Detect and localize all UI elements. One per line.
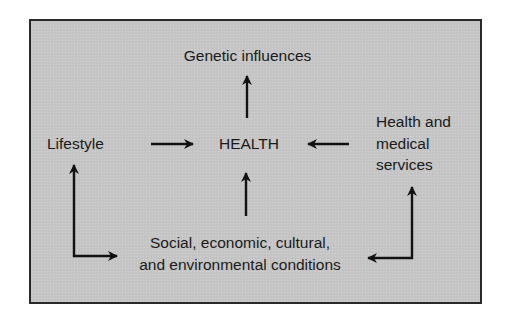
node-lifestyle: Lifestyle <box>47 133 104 155</box>
node-health-medical-services: Health and medical services <box>376 111 451 176</box>
node-health: HEALTH <box>205 133 293 155</box>
node-genetic-influences: Genetic influences <box>170 45 325 67</box>
services-line-1: Health and <box>376 111 451 133</box>
services-line-3: services <box>376 154 451 176</box>
services-line-2: medical <box>376 133 451 155</box>
conditions-line-1: Social, economic, cultural, <box>115 232 365 254</box>
conditions-line-2: and environmental conditions <box>115 254 365 276</box>
node-social-conditions: Social, economic, cultural, and environm… <box>115 232 365 275</box>
